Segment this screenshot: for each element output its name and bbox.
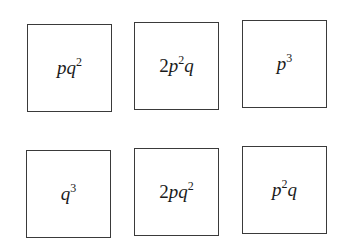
coefficient: 2 <box>159 181 169 202</box>
term-box: p2q <box>242 146 327 234</box>
coefficient: 2 <box>159 55 169 76</box>
term-label: 2p2q <box>159 55 194 77</box>
variable: q <box>67 57 77 78</box>
term-box: q3 <box>26 150 111 238</box>
variable: q <box>178 181 188 202</box>
variable: q <box>184 55 194 76</box>
term-label: p3 <box>277 53 293 75</box>
variable: p <box>169 181 179 202</box>
term-label: pq2 <box>57 57 82 79</box>
term-box: pq2 <box>27 24 112 112</box>
variable: p <box>169 55 179 76</box>
variable: q <box>61 183 71 204</box>
variable: p <box>272 179 282 200</box>
exponent: 2 <box>188 179 194 193</box>
term-box: p3 <box>242 20 327 108</box>
term-box: 2p2q <box>134 22 219 110</box>
term-label: q3 <box>61 183 77 205</box>
term-box: 2pq2 <box>134 148 219 236</box>
exponent: 2 <box>76 55 82 69</box>
variable: p <box>277 53 287 74</box>
term-label: p2q <box>272 179 297 201</box>
variable: p <box>57 57 67 78</box>
exponent: 3 <box>70 181 76 195</box>
exponent: 3 <box>286 51 292 65</box>
variable: q <box>288 179 298 200</box>
term-label: 2pq2 <box>159 181 194 203</box>
